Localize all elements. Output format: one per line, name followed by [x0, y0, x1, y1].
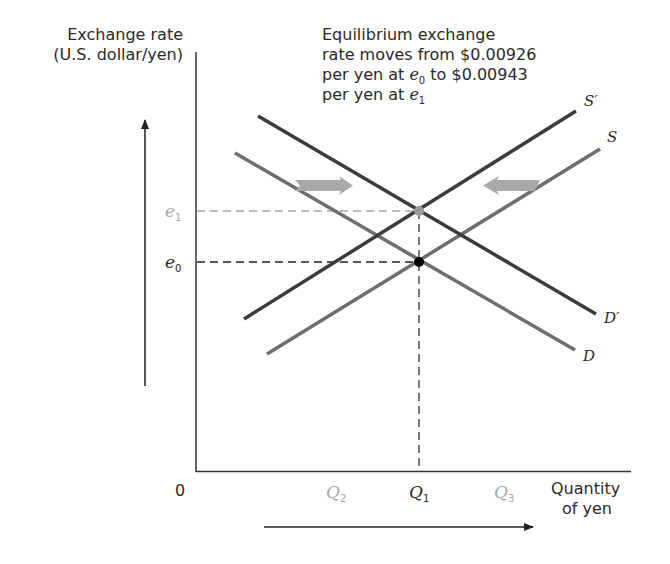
x-tick-q3: Q3 — [494, 483, 514, 508]
annotation-line3-b: to $0.00943 — [425, 65, 528, 84]
curve-label-d-prime: D′ — [604, 309, 619, 328]
x-axis-label-line2: of yen — [562, 499, 612, 518]
y-tick-e0-letter: e — [165, 252, 175, 272]
x-tick-q3-sub: 3 — [508, 493, 514, 504]
annotation-line4: per yen at e1 — [322, 85, 425, 110]
demand-curve-d-prime — [258, 116, 596, 314]
supply-curve-s-prime — [244, 111, 576, 319]
supply-curve-s — [267, 149, 600, 354]
annotation-e0-letter: e — [409, 65, 418, 84]
annotation-line4-a: per yen at — [322, 85, 409, 104]
x-tick-q1-letter: Q — [409, 482, 423, 502]
curve-label-s-prime: S′ — [584, 92, 598, 111]
y-tick-e1: e1 — [165, 202, 181, 227]
annotation-line1: Equilibrium exchange — [322, 25, 495, 44]
y-axis-label-line2: (U.S. dollar/yen) — [53, 45, 183, 64]
x-tick-q2-letter: Q — [326, 482, 340, 502]
equilibrium-point-e0 — [414, 257, 424, 267]
x-tick-q1: Q1 — [409, 483, 429, 508]
y-tick-e0: e0 — [165, 253, 181, 278]
annotation-line3-a: per yen at — [322, 65, 409, 84]
annotation-e1-sub: 1 — [419, 95, 425, 106]
x-tick-q1-sub: 1 — [423, 493, 429, 504]
x-tick-q2: Q2 — [326, 483, 346, 508]
x-tick-q2-sub: 2 — [340, 493, 346, 504]
annotation-line2: rate moves from $0.00926 — [322, 45, 536, 64]
x-axis-label-line1: Quantity — [551, 479, 620, 498]
y-tick-e1-sub: 1 — [175, 212, 181, 223]
annotation-e1-letter: e — [409, 85, 418, 104]
curve-label-d: D — [583, 347, 595, 366]
origin-label: 0 — [175, 481, 185, 500]
curve-label-s: S — [607, 128, 617, 147]
x-tick-q3-letter: Q — [494, 482, 508, 502]
y-axis-label-line1: Exchange rate — [67, 25, 183, 44]
y-tick-e1-letter: e — [165, 201, 175, 221]
equilibrium-point-e1 — [414, 206, 424, 216]
y-tick-e0-sub: 0 — [175, 263, 181, 274]
